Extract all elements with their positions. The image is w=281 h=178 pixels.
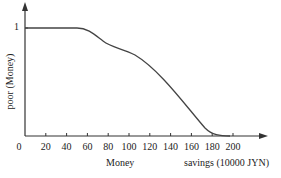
x-tick-label-100: 100 (122, 141, 137, 152)
y-axis-label: poor (Money) (4, 54, 15, 110)
x-tick-label-80: 80 (103, 141, 113, 152)
data-line (25, 28, 230, 136)
x-tick-label-160: 160 (184, 141, 199, 152)
x-tick-label-40: 40 (62, 141, 72, 152)
y-axis-arrow-icon (22, 2, 28, 11)
x-tick-label-200: 200 (226, 141, 241, 152)
x-tick-label-120: 120 (142, 141, 157, 152)
x-tick-label-60: 60 (82, 141, 92, 152)
x-tick-label-0: 0 (17, 141, 22, 152)
x-tick-label-180: 180 (205, 141, 220, 152)
x-tick-label-20: 20 (41, 141, 51, 152)
x-axis-label: Money (106, 157, 134, 168)
x-axis-arrow-icon (259, 133, 268, 139)
y-tick-label-1: 1 (14, 21, 19, 32)
x-axis-unit-label: savings (10000 JYN) (184, 157, 269, 168)
x-tick-label-140: 140 (163, 141, 178, 152)
